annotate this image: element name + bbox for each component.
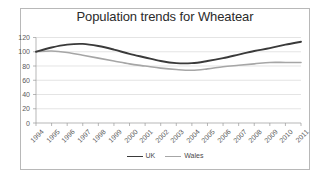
y-tick-label: 80 — [8, 63, 30, 70]
legend-label: Wales — [184, 152, 203, 160]
y-tick-label: 60 — [8, 77, 30, 84]
chart-legend: UKWales — [0, 152, 330, 160]
legend-label: UK — [146, 152, 156, 160]
y-tick-label: 0 — [8, 120, 30, 127]
y-tick-label: 120 — [8, 34, 30, 41]
y-tick-label: 20 — [8, 105, 30, 112]
legend-entry-uk: UK — [127, 152, 156, 160]
legend-entry-wales: Wales — [165, 152, 203, 160]
legend-line-swatch — [165, 156, 181, 157]
y-tick-label: 100 — [8, 48, 30, 55]
y-tick-label: 40 — [8, 91, 30, 98]
chart-screenshot: Population trends for Wheatear 020406080… — [0, 0, 330, 182]
legend-line-swatch — [127, 156, 143, 157]
